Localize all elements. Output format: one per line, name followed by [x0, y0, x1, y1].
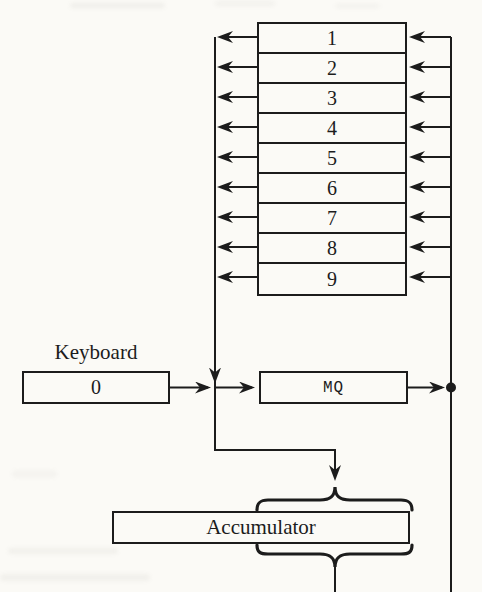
register-row-4: 4 — [259, 114, 405, 144]
register-row-9: 9 — [259, 264, 405, 294]
register-row-3: 3 — [259, 84, 405, 114]
mq-label: MQ — [323, 379, 344, 397]
wiring-layer — [0, 0, 482, 592]
bus-junction-dot — [446, 383, 456, 393]
register-stack: 1 2 3 4 5 6 7 8 9 — [257, 22, 407, 296]
scan-noise — [335, 4, 380, 8]
keyboard-zero-value: 0 — [91, 376, 101, 399]
scan-noise — [8, 548, 118, 554]
register-row-2: 2 — [259, 54, 405, 84]
accumulator-label: Accumulator — [206, 515, 316, 540]
scan-noise — [70, 3, 165, 8]
register-row-5: 5 — [259, 144, 405, 174]
register-row-8: 8 — [259, 234, 405, 264]
register-row-7: 7 — [259, 204, 405, 234]
keyboard-zero-box: 0 — [22, 371, 170, 404]
keyboard-label: Keyboard — [22, 339, 170, 365]
scan-noise — [12, 470, 57, 478]
scan-noise — [215, 1, 275, 6]
register-row-6: 6 — [259, 174, 405, 204]
accumulator-overbrace — [257, 487, 412, 510]
register-row-1: 1 — [259, 24, 405, 54]
diagram-canvas: 1 2 3 4 5 6 7 8 9 Keyboard 0 MQ Accumula… — [0, 0, 482, 592]
mq-register-box: MQ — [259, 371, 408, 404]
accumulator-underbrace — [257, 545, 412, 567]
scan-noise — [0, 574, 150, 581]
accumulator-box: Accumulator — [112, 511, 410, 544]
